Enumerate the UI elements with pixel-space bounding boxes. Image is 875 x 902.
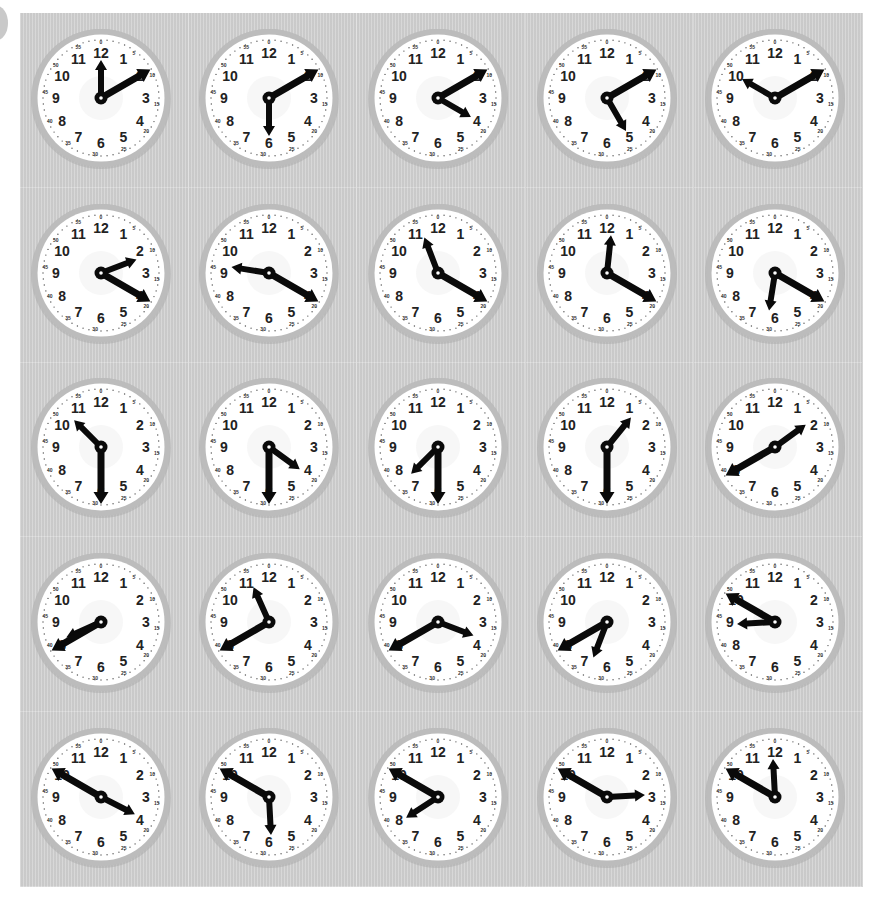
minute-tick [387,243,388,244]
minute-label: 15 [154,101,160,107]
minute-label: 15 [322,276,328,282]
minute-tick [548,622,549,623]
minute-tick [298,47,299,48]
minute-label: 55 [75,393,81,399]
minute-tick [216,598,217,599]
minute-tick [298,322,299,323]
minute-tick [129,497,130,498]
minute-tick [82,741,83,742]
minute-tick [443,854,444,855]
minute-tick [382,429,383,430]
minute-tick [736,404,737,405]
minute-tick [308,578,309,579]
minute-label: 35 [234,665,240,671]
minute-tick [245,150,246,151]
minute-tick [567,54,568,55]
minute-tick [43,784,44,785]
minute-tick [624,42,625,43]
minute-tick [381,784,382,785]
minute-tick [757,392,758,393]
minute-tick [287,327,288,328]
minute-tick [379,272,380,273]
hour-numeral: 12 [93,220,109,236]
minute-label: 55 [581,568,587,574]
minute-tick [664,796,665,797]
minute-tick [809,669,810,670]
minute-tick [71,397,72,398]
minute-label: 15 [491,450,497,456]
hour-numeral: 11 [408,51,423,67]
minute-tick [82,152,83,153]
minute-label: 35 [571,315,577,321]
minute-tick [443,564,444,565]
minute-label: 55 [750,393,756,399]
minute-tick [214,465,215,466]
minute-tick [781,854,782,855]
minute-tick [327,622,328,623]
minute-tick [100,854,101,855]
minute-label: 55 [75,44,81,50]
minute-label: 10 [149,597,155,603]
hour-numeral: 4 [304,812,312,828]
hour-numeral: 10 [223,417,239,433]
hour-numeral: 3 [310,439,318,455]
minute-tick [312,583,313,584]
minute-tick [218,593,219,594]
minute-tick [61,665,62,666]
hour-numeral: 9 [220,614,228,630]
minute-tick [567,229,568,230]
minute-tick [150,476,151,477]
hour-numeral: 10 [223,67,239,83]
clock-cell: 0510152025303540455055121234567891011 [357,712,526,887]
minute-tick [281,504,282,505]
minute-tick [736,54,737,55]
minute-tick [563,835,564,836]
minute-tick [825,767,826,768]
minute-tick [818,660,819,661]
minute-tick [230,665,231,666]
minute-tick [635,47,636,48]
minute-tick [216,423,217,424]
minute-tick [798,569,799,570]
minute-tick [153,121,154,122]
minute-tick [818,233,819,234]
minute-tick [577,222,578,223]
minute-tick [612,155,613,156]
minute-tick [326,616,327,617]
hour-numeral: 9 [726,265,734,281]
minute-tick [308,140,309,141]
minute-tick [494,435,495,436]
hour-numeral: 8 [58,287,66,303]
minute-tick [324,79,325,80]
minute-tick [656,126,657,127]
hour-numeral: 7 [74,828,82,844]
minute-tick [155,814,156,815]
minute-tick [492,640,493,641]
minute-tick [831,784,832,785]
minute-tick [455,327,456,328]
hour-numeral: 4 [473,112,481,128]
minute-tick [832,272,833,273]
minute-tick [659,470,660,471]
minute-tick [825,418,826,419]
minute-tick [582,849,583,850]
minute-tick [425,329,426,330]
minute-label: 40 [215,118,221,124]
minute-tick [629,743,630,744]
minute-label: 40 [47,118,53,124]
clock-cell: 0510152025303540455055121234567891011 [20,712,189,887]
minute-tick [659,820,660,821]
minute-tick [718,784,719,785]
hour-numeral: 9 [726,90,734,106]
minute-tick [792,741,793,742]
minute-tick [157,435,158,436]
minute-tick [88,853,89,854]
minute-tick [594,504,595,505]
minute-tick [403,225,404,226]
minute-tick [230,315,231,316]
minute-label: 55 [412,568,418,574]
minute-tick [728,830,729,831]
minute-label: 30 [92,325,98,331]
minute-tick [492,778,493,779]
minute-tick [664,616,665,617]
